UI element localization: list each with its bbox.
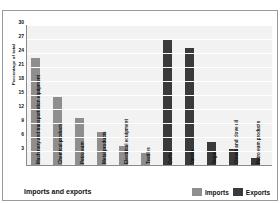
category-label: Petroleum products: [256, 121, 261, 164]
y-tick-label: 6: [21, 131, 24, 137]
chart-footer: Imports and exports Imports Exports: [0, 175, 280, 203]
category-label: Cloves and clove oil: [234, 120, 239, 164]
legend-label-exports: Exports: [246, 189, 270, 196]
chart-legend: Imports Exports: [192, 188, 270, 196]
y-tick-label: 27: [18, 33, 24, 39]
gridline: [27, 53, 272, 54]
category-label: Sugar: [212, 151, 217, 164]
gridline: [27, 137, 272, 138]
category-label: Electrical equipment: [124, 119, 129, 164]
gridline: [27, 39, 272, 40]
gridline: [27, 109, 272, 110]
plot-area: Machinery and transportation equipmentCh…: [26, 25, 272, 166]
gridline: [27, 151, 272, 152]
chart-title: Imports and exports: [24, 188, 91, 195]
y-tick-label: 15: [18, 89, 24, 95]
legend-item-exports[interactable]: Exports: [233, 188, 270, 196]
bar-exports[interactable]: [163, 39, 172, 165]
category-label: Petroleum: [80, 142, 85, 164]
legend-swatch-exports: [233, 188, 243, 196]
category-label: Textiles: [146, 147, 151, 164]
gridline: [27, 123, 272, 124]
y-tick-label: 21: [18, 61, 24, 67]
gridline: [27, 81, 272, 82]
gridline: [27, 95, 272, 96]
gridline: [27, 67, 272, 68]
y-tick-label: 12: [18, 103, 24, 109]
gridline: [27, 25, 272, 26]
y-tick-label: 30: [18, 19, 24, 25]
y-tick-label: 18: [18, 75, 24, 81]
y-tick-label: 24: [18, 47, 24, 53]
y-tick-label: 9: [21, 117, 24, 123]
chart-figure: Percentage of total 30272421181512963 Ma…: [0, 0, 280, 203]
legend-label-imports: Imports: [205, 189, 229, 196]
category-label: Chemical products: [58, 123, 63, 164]
legend-item-imports[interactable]: Imports: [192, 188, 229, 196]
legend-swatch-imports: [192, 188, 202, 196]
y-axis-ticks: 30272421181512963: [8, 22, 24, 167]
bar-exports[interactable]: [185, 48, 194, 165]
y-tick-label: 3: [21, 145, 24, 151]
